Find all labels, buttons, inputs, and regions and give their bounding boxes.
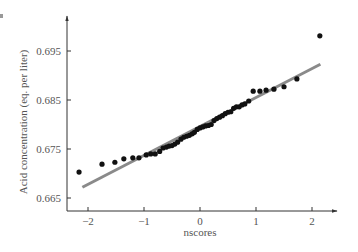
data-point [130,155,135,160]
data-point [281,84,286,89]
data-point [76,169,81,174]
data-point [153,151,158,156]
x-tick-label: −2 [82,215,94,227]
data-point [112,160,117,165]
data-points [76,33,322,174]
y-tick-label: 0.695 [36,45,61,57]
data-point [263,88,268,93]
data-point [246,98,251,103]
x-ticks: −2−1012 [82,207,315,227]
y-ticks: 0.6650.6750.6850.695 [36,45,71,204]
x-tick-label: −1 [138,215,150,227]
x-axis-label: nscores [184,226,217,238]
data-point [271,87,276,92]
y-axis-label: Acid concentration (eq. per liter) [17,49,30,194]
data-point [148,151,153,156]
axes [67,16,337,211]
y-tick-label: 0.685 [36,94,61,106]
x-tick-label: 1 [253,215,259,227]
y-tick-label: 0.675 [36,143,61,155]
data-point [257,89,262,94]
data-point [99,162,104,167]
y-tick-label: 0.665 [36,192,61,204]
qq-plot: −2−1012 0.6650.6750.6850.695 nscores Aci… [0,0,358,252]
data-point [251,89,256,94]
data-point [121,156,126,161]
data-point [317,33,322,38]
x-tick-label: 2 [309,215,315,227]
data-point [144,152,149,157]
data-point [136,155,141,160]
data-point [294,76,299,81]
